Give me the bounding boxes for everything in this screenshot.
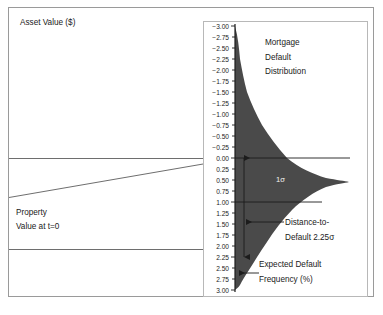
expected-default-frequency-annotation: Expected Default Frequency (%) <box>259 258 321 287</box>
expected-default-frequency-line-1: Expected Default <box>259 258 321 273</box>
property-value-line-1: Property <box>16 206 59 220</box>
axis-ticks <box>231 26 235 290</box>
distance-to-default-line-2: Default 2.25σ <box>285 231 334 246</box>
tick-label: 1.00 <box>201 199 229 206</box>
tick-label: −1.25 <box>201 100 229 107</box>
tick-label: 1.50 <box>201 221 229 228</box>
tick-label: 3.00 <box>201 287 229 294</box>
tick-label: 2.50 <box>201 265 229 272</box>
one-sigma-annotation: 1σ <box>276 175 285 184</box>
tick-label: −2.75 <box>201 34 229 41</box>
asset-value-label: Asset Value ($) <box>20 18 75 27</box>
figure-container: Asset Value ($) Property Value at t=0 <box>0 0 383 315</box>
distribution-title-line-2: Default <box>265 51 306 66</box>
distance-to-default-annotation: Distance-to- Default 2.25σ <box>285 216 334 245</box>
distribution-title-annotation: Mortgage Default Distribution <box>265 36 306 80</box>
tick-label: 0.25 <box>201 166 229 173</box>
tick-label: −0.75 <box>201 122 229 129</box>
tick-label: −2.25 <box>201 56 229 63</box>
tick-label: 0.50 <box>201 177 229 184</box>
tick-label: −1.75 <box>201 78 229 85</box>
property-value-line-2: Value at t=0 <box>16 220 59 234</box>
tick-label: 1.25 <box>201 210 229 217</box>
tick-label: −2.00 <box>201 67 229 74</box>
tick-label: 2.00 <box>201 243 229 250</box>
distance-to-default-line-1: Distance-to- <box>285 216 334 231</box>
property-value-label: Property Value at t=0 <box>16 206 59 234</box>
distribution-title-line-3: Distribution <box>265 65 306 80</box>
tick-label: 2.75 <box>201 276 229 283</box>
tick-label: −1.50 <box>201 89 229 96</box>
tick-label: 0.75 <box>201 188 229 195</box>
tick-label: −1.00 <box>201 111 229 118</box>
tick-label: −2.50 <box>201 45 229 52</box>
tick-label: −0.50 <box>201 133 229 140</box>
tick-label: 2.25 <box>201 254 229 261</box>
distribution-title-line-1: Mortgage <box>265 36 306 51</box>
expected-default-frequency-line-2: Frequency (%) <box>259 273 321 288</box>
tick-label: −3.00 <box>201 23 229 30</box>
tick-label: 1.75 <box>201 232 229 239</box>
tick-label: −0.25 <box>201 144 229 151</box>
tick-label: 0.00 <box>201 155 229 162</box>
